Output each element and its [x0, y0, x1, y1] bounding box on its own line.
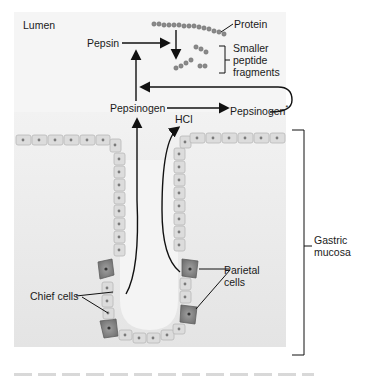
diagram-canvas: [0, 0, 368, 380]
fragments-label-3: fragments: [233, 66, 280, 78]
gastric-mucosa-label-2: mucosa: [314, 246, 351, 258]
figure-caption-cropped: [14, 373, 314, 376]
pepsinogen-label: Pepsinogen: [110, 102, 165, 114]
pepsin-label: Pepsin: [87, 37, 119, 49]
protein-label: Protein: [234, 18, 267, 30]
pit-lumen: [120, 160, 178, 330]
gastric-mucosa-label-1: Gastric: [314, 234, 347, 246]
fragments-label-1: Smaller: [233, 42, 269, 54]
lumen-label: Lumen: [23, 19, 55, 31]
hcl-label: HCl: [175, 113, 193, 125]
parietal-cells-label-2: cells: [224, 276, 245, 288]
parietal-cells-label-1: Parietal: [224, 264, 260, 276]
chief-cells-label: Chief cells: [30, 290, 78, 302]
fragments-label-2: peptide: [233, 54, 267, 66]
pepsinogen-active-label: Pepsinogen*: [230, 102, 288, 117]
gastric-pit-diagram: Lumen Pepsin Protein Smaller peptide fra…: [0, 0, 368, 380]
